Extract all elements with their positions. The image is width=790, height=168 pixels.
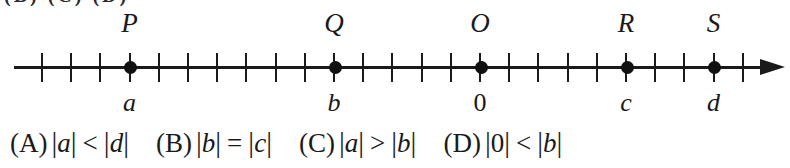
number-line-tick [391, 53, 393, 82]
answer-choice-b[interactable]: (B)b=c [156, 128, 273, 157]
number-line-tick [245, 53, 247, 82]
point-value-label-r: c [620, 90, 632, 116]
number-line-point-r [621, 61, 634, 74]
point-label-s: S [707, 10, 721, 37]
point-value-label-o: 0 [474, 90, 487, 116]
answer-choice-key: (D) [443, 130, 480, 157]
number-line-tick [537, 53, 539, 82]
number-line-tick [742, 53, 744, 82]
answer-choice-c[interactable]: (C)a>b [299, 128, 417, 157]
answer-choice-rhs: c [247, 128, 273, 157]
number-line-point-q [329, 61, 342, 74]
number-line-tick [275, 53, 277, 82]
number-line-tick [567, 53, 569, 82]
answer-choice-relation: < [516, 130, 531, 157]
number-line-tick [187, 53, 189, 82]
number-line-tick [70, 53, 72, 82]
answer-choice-rhs: b [390, 128, 417, 157]
answer-choice-a[interactable]: (A)a<d [10, 128, 130, 157]
point-label-o: O [470, 10, 490, 37]
number-line-tick [508, 53, 510, 82]
number-line-diagram: PaQbO0RcSd [0, 0, 790, 120]
number-line-tick [216, 53, 218, 82]
answer-choice-key: (B) [156, 130, 192, 157]
point-value-label-q: b [328, 90, 341, 116]
answer-choice-key: (C) [299, 130, 335, 157]
point-value-label-p: a [123, 90, 136, 116]
answer-choice-relation: < [83, 130, 98, 157]
number-line-arrowhead-icon [760, 59, 785, 75]
number-line-tick [596, 53, 598, 82]
answer-choice-lhs: a [338, 128, 365, 157]
answer-choice-relation: = [227, 130, 242, 157]
point-label-p: P [121, 10, 138, 37]
answer-choice-rhs: d [103, 128, 130, 157]
number-line-tick [450, 53, 452, 82]
number-line-tick [654, 53, 656, 82]
answer-choice-relation: > [370, 130, 385, 157]
number-line-tick [683, 53, 685, 82]
number-line-tick [99, 53, 101, 82]
number-line-question-figure: (B) (C) (D) PaQbO0RcSd (A)a<d(B)b=c(C)a>… [0, 0, 790, 168]
point-label-q: Q [324, 10, 344, 37]
number-line-tick [304, 53, 306, 82]
number-line-tick [362, 53, 364, 82]
answer-choice-lhs: a [50, 128, 77, 157]
point-value-label-s: d [707, 90, 720, 116]
number-line-tick [421, 53, 423, 82]
answer-choice-rhs: b [536, 128, 563, 157]
answer-choice-lhs: 0 [484, 128, 511, 157]
number-line-point-p [124, 61, 137, 74]
answer-choice-key: (A) [10, 130, 47, 157]
number-line-point-o [475, 61, 488, 74]
number-line-tick [158, 53, 160, 82]
number-line-tick [41, 53, 43, 82]
number-line-point-s [708, 61, 721, 74]
point-label-r: R [618, 10, 635, 37]
answer-choice-d[interactable]: (D)0<b [443, 128, 563, 157]
answer-choice-lhs: b [195, 128, 222, 157]
answer-choices-row: (A)a<d(B)b=c(C)a>b(D)0<b [10, 128, 790, 168]
